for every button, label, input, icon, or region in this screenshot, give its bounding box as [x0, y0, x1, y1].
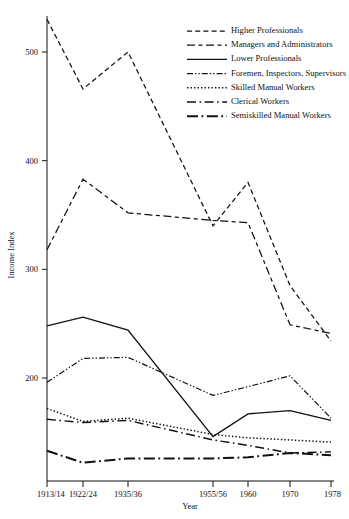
income-index-line-chart: 200300400500 1913/141922/241935/361955/5… [0, 0, 349, 519]
legend-label: Skilled Manual Workers [231, 82, 315, 92]
y-axis-title: Income Index [6, 231, 16, 279]
series-line-semiskilled-manual-workers [47, 451, 331, 463]
x-axis-ticks: 1913/141922/241935/361955/56196019701978 [37, 481, 341, 499]
series-line-skilled-manual-workers [47, 408, 331, 442]
legend-item: Clerical Workers [187, 96, 290, 106]
x-axis-title: Year [182, 501, 198, 511]
x-tick-label: 1955/56 [199, 489, 227, 499]
series-line-managers-and-administrators [47, 179, 331, 333]
series-line-lower-professionals [47, 317, 331, 437]
series-line-foremen-inspectors-supervisors [47, 357, 331, 418]
y-tick-label: 300 [25, 264, 38, 274]
x-tick-label: 1960 [240, 489, 257, 499]
legend-item: Lower Professionals [187, 53, 302, 63]
legend-item: Semiskilled Manual Workers [187, 110, 332, 120]
legend-label: Higher Professionals [231, 25, 303, 35]
legend-item: Managers and Administrators [187, 39, 333, 49]
legend-label: Semiskilled Manual Workers [231, 110, 332, 120]
x-tick-label: 1935/36 [114, 489, 142, 499]
y-tick-label: 400 [25, 156, 38, 166]
x-tick-label: 1922/24 [69, 489, 98, 499]
legend-label: Lower Professionals [231, 53, 302, 63]
legend-item: Higher Professionals [187, 25, 303, 35]
x-tick-label: 1978 [324, 489, 341, 499]
y-tick-label: 500 [25, 47, 38, 57]
legend-label: Managers and Administrators [231, 39, 333, 49]
x-tick-label: 1913/14 [37, 489, 66, 499]
y-tick-label: 200 [25, 373, 38, 383]
legend-label: Clerical Workers [231, 96, 290, 106]
legend-item: Foremen, Inspectors, Supervisors [187, 68, 347, 78]
chart-container: 200300400500 1913/141922/241935/361955/5… [0, 0, 349, 519]
x-tick-label: 1970 [282, 489, 299, 499]
legend-label: Foremen, Inspectors, Supervisors [231, 68, 347, 78]
y-axis-ticks: 200300400500 [25, 47, 47, 383]
legend-item: Skilled Manual Workers [187, 82, 315, 92]
legend: Higher ProfessionalsManagers and Adminis… [187, 25, 347, 120]
series-line-clerical-workers [47, 419, 331, 453]
